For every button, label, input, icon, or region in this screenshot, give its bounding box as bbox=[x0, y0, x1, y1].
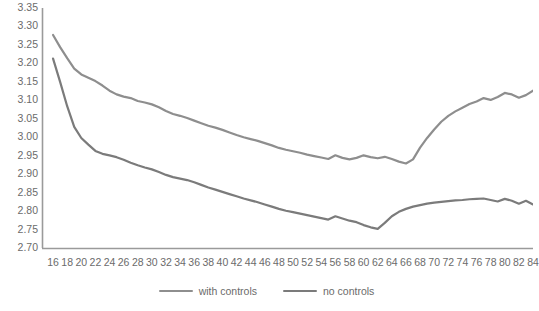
y-axis-tick-labels: 3.353.303.253.203.153.103.053.002.952.90… bbox=[0, 0, 38, 260]
legend-line-swatch-icon bbox=[283, 290, 317, 292]
series-line-0 bbox=[53, 35, 533, 163]
axis-lines bbox=[42, 8, 533, 249]
y-tick-label: 3.20 bbox=[18, 57, 38, 68]
y-tick-label: 2.70 bbox=[18, 242, 38, 253]
legend-item[interactable]: no controls bbox=[283, 286, 374, 297]
legend-line-swatch-icon bbox=[159, 290, 193, 292]
legend-item[interactable]: with controls bbox=[159, 286, 257, 297]
y-tick-label: 2.85 bbox=[18, 187, 38, 198]
y-tick-label: 3.35 bbox=[18, 2, 38, 13]
y-tick-label: 3.00 bbox=[18, 131, 38, 142]
y-tick-label: 2.95 bbox=[18, 150, 38, 161]
y-tick-label: 3.15 bbox=[18, 76, 38, 87]
legend-item-label: no controls bbox=[323, 286, 374, 297]
chart-legend: with controlsno controls bbox=[0, 286, 533, 297]
y-tick-label: 2.80 bbox=[18, 205, 38, 216]
data-series-layer bbox=[53, 35, 533, 229]
y-tick-label: 3.05 bbox=[18, 113, 38, 124]
legend-item-label: with controls bbox=[199, 286, 257, 297]
y-tick-label: 2.75 bbox=[18, 224, 38, 235]
series-line-1 bbox=[53, 59, 533, 229]
y-tick-label: 3.25 bbox=[18, 39, 38, 50]
y-tick-label: 2.90 bbox=[18, 168, 38, 179]
y-tick-label: 3.10 bbox=[18, 94, 38, 105]
y-tick-label: 3.30 bbox=[18, 20, 38, 31]
